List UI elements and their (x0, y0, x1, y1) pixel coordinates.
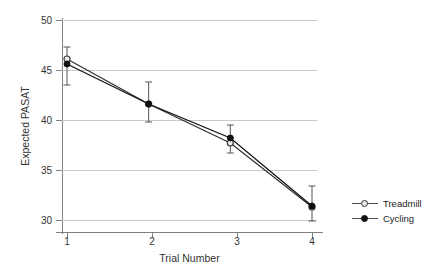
filled-circle-icon (361, 215, 368, 222)
x-axis-line (56, 232, 323, 233)
x-tick-label-2: 2 (149, 236, 155, 247)
x-tick-label-4: 4 (309, 236, 315, 247)
legend-line-icon-treadmill (352, 199, 378, 209)
chart-legend: Treadmill Cycling (352, 196, 422, 226)
x-tick-label-3: 3 (234, 236, 240, 247)
gridline-30 (62, 220, 317, 221)
legend-label-treadmill: Treadmill (383, 198, 422, 209)
y-tick-label-30: 30 (22, 215, 52, 226)
legend-label-cycling: Cycling (383, 213, 414, 224)
plot-area (62, 20, 317, 220)
series-layer (62, 20, 317, 220)
y-axis-title: Expected PASAT (19, 56, 31, 196)
open-circle-icon (361, 200, 368, 207)
y-tick-label-50: 50 (22, 15, 52, 26)
legend-item-treadmill: Treadmill (352, 196, 422, 211)
x-axis-title: Trial Number (62, 252, 317, 264)
x-tick-label-1: 1 (64, 236, 70, 247)
chart-figure: 50 45 40 35 30 1 2 3 4 Trial Number Expe… (0, 0, 439, 275)
legend-line-icon-cycling (352, 214, 378, 224)
legend-item-cycling: Cycling (352, 211, 422, 226)
